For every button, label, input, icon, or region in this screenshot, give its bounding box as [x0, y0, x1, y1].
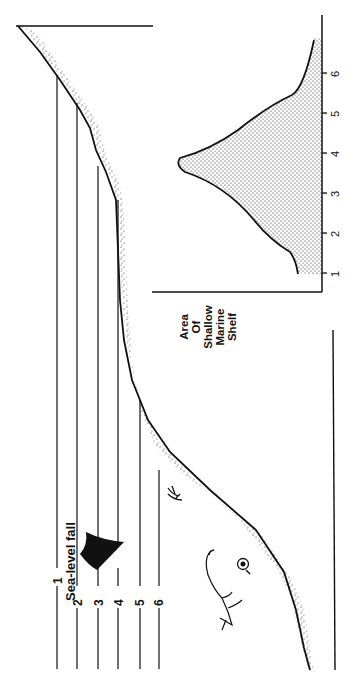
sea-level-label-6: 6 [152, 599, 166, 606]
crinoid-illustration [168, 486, 182, 500]
diagram-title: Sea-level fall [63, 522, 78, 601]
caption-line-2: Of [190, 295, 202, 359]
sea-level-label-5: 5 [133, 599, 147, 606]
sea-level-label-4: 4 [112, 599, 126, 606]
inset-tick-4: 4 [329, 151, 341, 157]
plesiosaur-illustration [206, 550, 242, 630]
shelf-area-curve [178, 38, 322, 275]
sea-level-label-3: 3 [92, 599, 106, 606]
inset-chart [152, 15, 327, 292]
inset-tick-6: 6 [329, 71, 341, 77]
caption-line-4: Marine [214, 295, 226, 359]
inset-tick-2: 2 [329, 231, 341, 237]
inset-tick-1: 1 [329, 271, 341, 277]
ammonite-illustration [238, 559, 251, 575]
baseline [333, 330, 335, 670]
caption-line-5: Shelf [226, 295, 238, 359]
sea-level-diagram: 1 2 3 4 5 6 Sea-level fall 1 2 3 4 5 6 A… [0, 0, 354, 683]
caption-line-3: Shallow [202, 295, 214, 359]
inset-tick-5: 5 [329, 111, 341, 117]
inset-caption: Area Of Shallow Marine Shelf [178, 295, 238, 359]
caption-line-1: Area [178, 295, 190, 359]
inset-tick-3: 3 [329, 191, 341, 197]
